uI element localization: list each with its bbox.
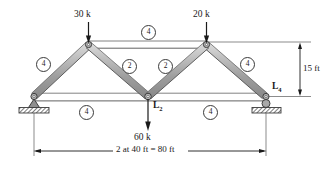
joint-hole (33, 95, 35, 97)
member-number-top-chord: 4 (141, 25, 156, 40)
dimension-arrowhead (298, 43, 302, 50)
joint-hole (87, 43, 89, 45)
member-edge (146, 42, 204, 93)
joint-label-L2-sub: 2 (159, 105, 162, 112)
roller-wheel (262, 100, 270, 108)
member-number-right-diagonal: 4 (240, 57, 255, 72)
member-edge (91, 42, 150, 93)
member-number-left-web: 2 (122, 59, 137, 74)
truss-members (32, 41, 268, 101)
dimension-arrowhead (34, 149, 42, 153)
truss-diagram-figure: 30 k 20 k 60 k L2 L4 15 ft 2 at 40 ft = … (0, 0, 321, 174)
load-label-60k: 60 k (134, 133, 151, 143)
dimension-arrowhead (298, 90, 302, 97)
member-edge (151, 48, 209, 99)
load-label-20k: 20 k (193, 10, 210, 20)
member-number-right-web: 2 (158, 59, 173, 74)
member-edge (37, 48, 91, 99)
member-edge (204, 48, 263, 99)
joint-label-L4-sub: 4 (278, 86, 281, 93)
joint-label-L4: L4 (272, 82, 282, 93)
member-number-left-diagonal: 4 (36, 57, 51, 72)
member-right-web (149, 45, 207, 96)
dimension-label-15ft: 15 ft (303, 64, 320, 73)
member-edge (209, 42, 268, 93)
member-number-bottom-right-chord: 4 (203, 105, 218, 120)
joint-label-L2: L2 (153, 101, 163, 112)
member-number-bottom-left-chord: 4 (79, 105, 94, 120)
support-roller (252, 100, 281, 114)
member-left-web (89, 45, 148, 96)
support-ground-hatch (252, 108, 281, 114)
member-edge (86, 48, 145, 99)
load-label-30k: 30 k (74, 10, 91, 20)
member-right-diagonal (207, 45, 266, 96)
joint-hole (205, 43, 207, 45)
support-ground-hatch (19, 108, 49, 114)
load-arrowhead (145, 122, 151, 132)
dimension-arrowhead (259, 149, 267, 153)
joint-hole (147, 95, 149, 97)
dimension-label-span: 2 at 40 ft = 80 ft (116, 145, 175, 154)
joint-hole (265, 95, 267, 97)
